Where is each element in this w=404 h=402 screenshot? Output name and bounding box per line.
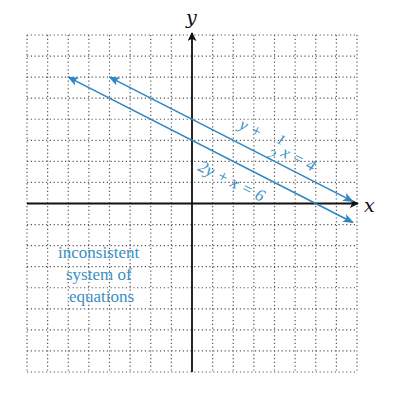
- axes: [27, 33, 358, 372]
- graph: y x y + 1 2 x = 4 2y + x = 6 inconsisten…: [0, 0, 404, 402]
- annotation: inconsistent system of equations: [58, 243, 139, 306]
- equation-label-2-text: 2y + x = 6: [195, 157, 268, 206]
- annotation-line-3: equations: [69, 287, 134, 306]
- equation-label-1: y + 1 2 x = 4: [229, 112, 323, 182]
- equation-line-2: [68, 77, 353, 222]
- equation-label-1-part-a: y +: [234, 114, 265, 142]
- y-axis-label: y: [185, 6, 197, 28]
- annotation-line-1: inconsistent: [58, 243, 139, 262]
- x-axis-label: x: [364, 194, 375, 216]
- equation-label-1-part-b: x = 4: [277, 142, 319, 176]
- equation-label-1-denominator: 2: [264, 146, 278, 164]
- annotation-line-2: system of: [66, 265, 132, 284]
- equation-lines: [68, 77, 353, 222]
- equation-label-2: 2y + x = 6: [195, 157, 268, 206]
